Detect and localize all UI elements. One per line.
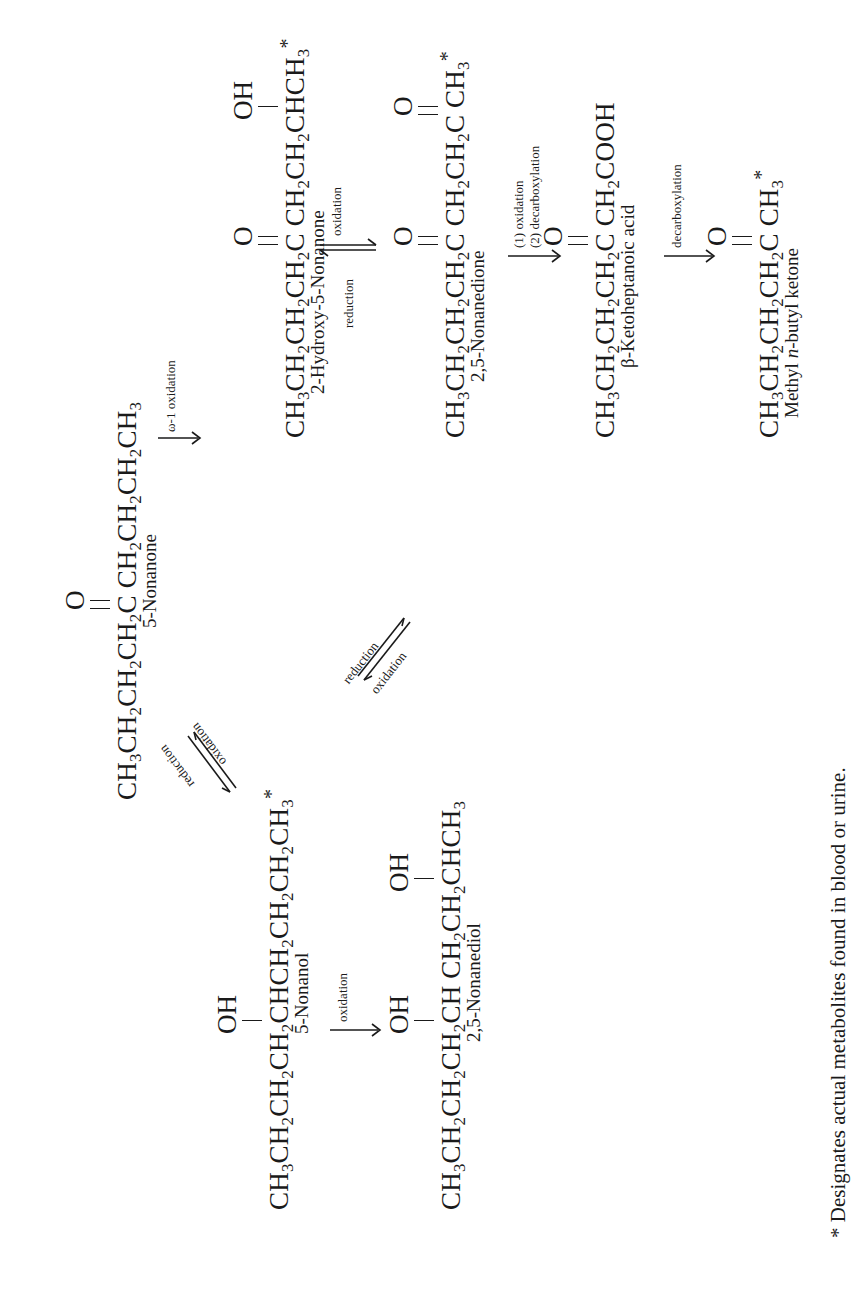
hydroxyl-group: OH (214, 995, 241, 1034)
carbonyl-oxygen: O (540, 227, 567, 247)
formula-5-nonanone: CH3CH2CH2CH2C CH2CH2CH2CH3 (114, 402, 141, 800)
single-bond (242, 1020, 262, 1021)
carbonyl-oxygen-5: O (390, 227, 417, 247)
double-bond (732, 236, 752, 245)
label-oxidation: oxidation (336, 973, 349, 1022)
single-bond (414, 878, 434, 879)
label-oxidation: oxidation (330, 187, 343, 236)
name-beta-ketoheptanoic-acid: β-Ketoheptanoic acid (618, 205, 637, 368)
double-bond (568, 236, 588, 245)
double-bond (418, 106, 438, 115)
equilibrium-arrows-oxidation-reduction (318, 228, 380, 258)
carbonyl-oxygen-2: O (390, 97, 417, 117)
formula-5-nonanol: CH3CH2CH2CH2CHCH2CH2CH2CH3* (266, 789, 293, 1210)
double-bond (258, 236, 278, 245)
formula-2-5-nonanediol: CH3CH2CH2CH2CH CH2CH2CHCH3 (438, 801, 465, 1210)
name-2-5-nonanedione: 2,5-Nonanedione (468, 251, 487, 382)
carbonyl-oxygen: O (704, 227, 731, 247)
double-bond (418, 236, 438, 245)
single-bond (414, 1020, 434, 1021)
label-reduction: reduction (342, 279, 355, 328)
name-5-nonanol: 5-Nonanol (292, 953, 311, 1034)
single-bond (258, 106, 278, 107)
double-bond (90, 600, 110, 609)
label-decarboxylation: decarboxylation (670, 164, 683, 248)
name-2-5-nonanediol: 2,5-Nonanediol (464, 923, 483, 1042)
footnote: * Designates actual metabolites found in… (826, 767, 851, 1238)
hydroxyl-group: OH (230, 81, 257, 120)
name-5-nonanone: 5-Nonanone (140, 534, 159, 628)
label-step-1-oxidation: (1) oxidation (512, 180, 525, 248)
carbonyl-oxygen: O (62, 591, 89, 611)
formula-beta-ketoheptanoic-acid: CH3CH2CH2CH2C CH2COOH (592, 102, 619, 438)
name-methyl-n-butyl-ketone: Methyl n-butyl ketone (782, 248, 801, 418)
carbonyl-oxygen: O (230, 227, 257, 247)
formula-2-hydroxy-5-nonanone: CH3CH2CH2CH2C CH2CH2CHCH3* (282, 38, 309, 438)
label-omega-oxidation: ω-1 oxidation (164, 360, 177, 432)
hydroxyl-group-5: OH (386, 995, 413, 1034)
formula-methyl-n-butyl-ketone: CH3CH2CH2CH2C CH3* (756, 170, 783, 438)
metabolic-pathway-diagram: O CH3CH2CH2CH2C CH2CH2CH2CH3 5-Nonanone … (0, 0, 868, 1298)
formula-2-5-nonanedione: CH3CH2CH2CH2C CH2CH2C CH3* (442, 51, 469, 438)
hydroxyl-group-2: OH (386, 853, 413, 892)
